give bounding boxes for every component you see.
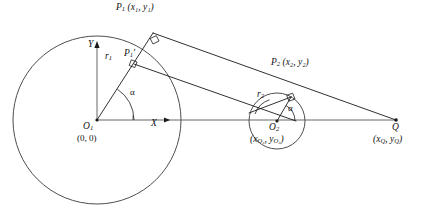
- label-x-axis: X: [151, 119, 157, 129]
- label-q: Q: [392, 123, 399, 133]
- label-p2-subscript: 2: [277, 60, 280, 67]
- label-o2-letter: O: [269, 122, 276, 132]
- label-p2: P2 (x₂, y₂): [271, 58, 309, 68]
- label-p1: P1 (x₁, y₁): [116, 3, 154, 13]
- label-o1-letter: O: [83, 121, 90, 131]
- parallel-line-p1prime: [134, 64, 296, 121]
- x-axis-arrowhead: [164, 117, 170, 122]
- label-p1-prime-mark: ′: [133, 48, 135, 58]
- label-q-coords-close: ): [399, 134, 402, 144]
- connector-line-o2-left: [249, 97, 291, 113]
- label-o2-coords-close: ): [280, 134, 283, 144]
- label-r2-subscript: 2: [261, 92, 264, 99]
- label-o1-subscript: 1: [90, 124, 93, 131]
- label-y-axis: Y: [88, 40, 93, 50]
- right-angle-marker-p1: [150, 36, 159, 44]
- label-p1-subscript: 1: [122, 5, 125, 12]
- label-alpha-2: α: [288, 104, 293, 113]
- label-r1-subscript: 1: [109, 54, 112, 61]
- label-alpha-1: α: [130, 88, 135, 97]
- label-o1-coords: (0, 0): [77, 134, 97, 143]
- radius-o1-p1: [97, 33, 153, 120]
- tangent-line-p1-p2-q: [153, 33, 396, 120]
- label-o1: O1: [83, 122, 93, 132]
- label-p2-coords: (x₂, y₂): [282, 57, 308, 67]
- label-r2: r2: [257, 90, 264, 100]
- label-r1: r1: [105, 52, 112, 62]
- diagram-canvas: [0, 0, 425, 206]
- label-o2: O2: [269, 123, 279, 133]
- point-o1: [95, 118, 98, 121]
- label-q-coords-mid: , y: [385, 134, 394, 144]
- y-axis-arrowhead: [94, 41, 99, 48]
- label-o2-coords: (xO₂, yO₂): [250, 135, 284, 145]
- geometry-diagram: P1 (x₁, y₁) P1′ P2 (x₂, y₂) O1 (0, 0) O2…: [0, 0, 425, 206]
- label-o2-subscript: 2: [276, 125, 279, 132]
- label-q-coords: (xQ, yQ): [373, 135, 402, 145]
- label-p1-coords: (x₁, y₁): [127, 2, 153, 12]
- label-p1-prime: P1′: [124, 49, 135, 59]
